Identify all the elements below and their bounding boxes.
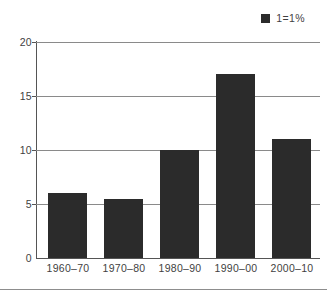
- y-tick-label-0: 0: [4, 253, 32, 264]
- plot-area: [36, 42, 320, 258]
- y-axis-tick-labels: 20 15 10 5 0: [0, 42, 32, 258]
- bar-1960-70: [48, 193, 87, 258]
- x-tick-label-2: 1980–90: [152, 261, 208, 275]
- y-tick-label-5: 5: [4, 199, 32, 210]
- x-tick-label-4: 2000–10: [264, 261, 320, 275]
- bar-1970-80: [104, 199, 143, 258]
- x-tick-label-0: 1960–70: [40, 261, 96, 275]
- bar-1980-90: [160, 150, 199, 258]
- legend-swatch-icon: [261, 14, 270, 23]
- y-tick-label-15: 15: [4, 91, 32, 102]
- x-axis-tick-labels: 1960–70 1970–80 1980–90 1990–00 2000–10: [36, 261, 320, 277]
- x-tick-label-1: 1970–80: [96, 261, 152, 275]
- bar-series: [36, 42, 320, 258]
- footer-divider: [0, 289, 327, 290]
- chart-legend: 1=1%: [261, 11, 305, 25]
- legend-label: 1=1%: [276, 13, 305, 24]
- bar-1990-00: [216, 74, 255, 258]
- y-tick-label-10: 10: [4, 145, 32, 156]
- x-tick-label-3: 1990–00: [208, 261, 264, 275]
- bar-chart-figure: 1=1% 20 15 10 5 0 1960–70 19: [0, 0, 327, 300]
- bar-2000-10: [272, 139, 311, 258]
- x-axis-line: [36, 258, 320, 259]
- y-tick-label-20: 20: [4, 37, 32, 48]
